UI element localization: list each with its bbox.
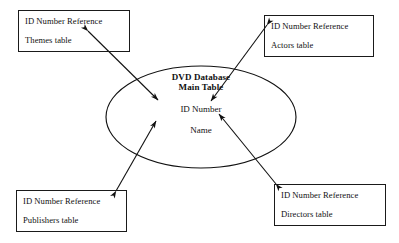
center-node-title-line1: DVD Database: [172, 72, 230, 82]
center-node-field-id-number: ID Number: [106, 105, 296, 115]
publishers-table-box-heading: ID Number Reference: [23, 197, 126, 206]
publishers-table-box-label: Publishers table: [23, 216, 126, 225]
center-node-title-line2: Main Table: [179, 82, 224, 92]
actors-table-box: ID Number Reference Actors table: [264, 15, 374, 57]
center-node-field-name: Name: [106, 126, 296, 136]
publishers-table-box: ID Number Reference Publishers table: [16, 190, 127, 232]
diagram-canvas: DVD Database Main Table ID Number Name I…: [0, 0, 399, 243]
center-node-title: DVD Database Main Table: [106, 72, 296, 92]
directors-table-box-heading: ID Number Reference: [281, 191, 385, 200]
actors-table-box-heading: ID Number Reference: [271, 22, 373, 31]
directors-table-box: ID Number Reference Directors table: [274, 184, 386, 226]
dvd-database-main-table: DVD Database Main Table ID Number Name: [106, 66, 296, 168]
themes-table-box-label: Themes table: [25, 36, 129, 45]
actors-table-box-label: Actors table: [271, 41, 373, 50]
themes-table-box-heading: ID Number Reference: [25, 17, 129, 26]
themes-table-box: ID Number Reference Themes table: [18, 10, 130, 52]
directors-table-box-label: Directors table: [281, 210, 385, 219]
